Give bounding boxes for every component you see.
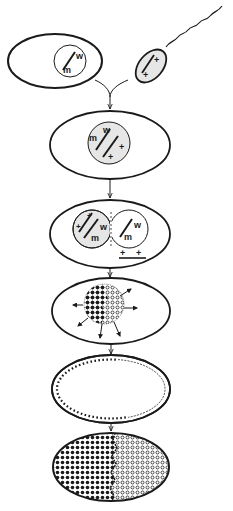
zygote-cell: w m + + [50,111,170,179]
egg-nucleus: w m [54,45,86,77]
nuclei-cluster [82,282,126,326]
allele-label: w [133,220,142,230]
allele-label: w [99,222,108,232]
diagram-canvas: w m + + w m + + [0,0,233,511]
allele-label: + [76,222,81,231]
fertilization-arrows [95,80,128,109]
allele-label: + [154,55,159,65]
egg-cell: w m [8,34,102,88]
blastoderm-cell [52,355,170,423]
allele-label: + [108,152,113,162]
mutant-clone-region [50,430,117,505]
allele-label: m [91,233,99,243]
mosaic-embryo [50,430,175,505]
allele-label: + [136,248,141,258]
allele-label: + [143,70,148,80]
allele-label: + [120,248,125,258]
cleavage-cell [52,278,170,344]
allele-label: + [87,211,92,220]
allele-label: m [124,232,132,242]
allele-label: m [89,133,97,143]
excluded-chromosome: + + [119,248,146,258]
sperm-cell: + + [130,6,222,88]
two-nuclei-cell: + + w m w m + + [50,200,170,268]
allele-label: m [63,65,71,75]
zygote-nucleus: w m + + [88,122,130,164]
allele-label: w [102,125,111,135]
allele-label: + [119,142,124,152]
sperm-tail [166,6,222,47]
allele-label: w [75,51,84,61]
